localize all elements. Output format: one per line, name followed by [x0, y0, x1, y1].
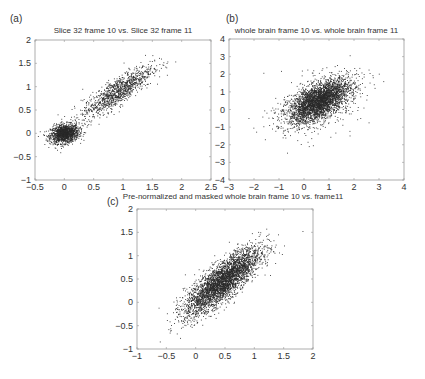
- y-tick-label: −1: [123, 344, 133, 354]
- x-tick-label: 4: [401, 182, 406, 192]
- y-tick-label: −2: [215, 140, 225, 150]
- scatter-points: [38, 55, 176, 153]
- axes-box: [35, 40, 211, 180]
- y-tick-label: 0: [128, 297, 133, 307]
- x-tick-label: 2: [351, 182, 356, 192]
- y-tick-label: −1: [215, 122, 225, 132]
- scatter-panel-b: −3−2−101234−4−3−2−101234whole brain fram…: [215, 13, 407, 192]
- y-tick-label: 2: [128, 204, 133, 214]
- x-tick-label: 0: [62, 182, 67, 192]
- y-tick-label: −4: [215, 175, 225, 185]
- y-tick-label: 1: [128, 251, 133, 261]
- y-tick-label: 1: [220, 87, 225, 97]
- scatter-points: [159, 229, 304, 343]
- x-tick-label: 0.5: [219, 351, 232, 361]
- y-tick-label: 2: [26, 35, 31, 45]
- y-tick-label: 1.5: [18, 58, 31, 68]
- y-tick-label: −1: [21, 175, 31, 185]
- y-tick-label: 0.5: [120, 274, 133, 284]
- panel-label: (c): [107, 196, 119, 207]
- x-tick-label: −1: [274, 182, 284, 192]
- panel-label: (a): [10, 13, 22, 24]
- y-tick-label: 1.5: [120, 227, 133, 237]
- scatter-panel-c: −1−0.500.511.52−1−0.500.511.52Pre-normal…: [107, 192, 344, 361]
- y-tick-label: −0.5: [13, 152, 31, 162]
- x-tick-label: 1.5: [146, 182, 159, 192]
- y-tick-label: 0: [220, 105, 225, 115]
- x-tick-label: 2: [179, 182, 184, 192]
- panel-label: (b): [226, 13, 238, 24]
- scatter-points: [249, 55, 385, 153]
- chart-title: whole brain frame 10 vs. whole brain fra…: [234, 26, 399, 35]
- chart-title: Pre-normalized and masked whole brain fr…: [123, 192, 344, 201]
- figure: −0.500.511.522.5−1−0.500.511.52Slice 32 …: [0, 0, 425, 379]
- x-tick-label: 3: [376, 182, 381, 192]
- y-tick-label: −0.5: [115, 321, 133, 331]
- y-tick-label: 4: [220, 34, 225, 44]
- x-tick-label: −1: [132, 351, 142, 361]
- y-tick-label: 2: [220, 69, 225, 79]
- chart-title: Slice 32 frame 10 vs. Slice 32 frame 11: [54, 26, 193, 35]
- x-tick-label: −3: [224, 182, 234, 192]
- x-tick-label: −2: [249, 182, 259, 192]
- x-tick-label: 1.5: [277, 351, 290, 361]
- scatter-figure: −0.500.511.522.5−1−0.500.511.52Slice 32 …: [0, 0, 425, 379]
- x-tick-label: 1: [252, 351, 257, 361]
- x-tick-label: 0: [193, 351, 198, 361]
- scatter-panel-a: −0.500.511.522.5−1−0.500.511.52Slice 32 …: [10, 13, 217, 192]
- x-tick-label: 2: [310, 351, 315, 361]
- y-tick-label: 0.5: [18, 105, 31, 115]
- x-tick-label: 1: [326, 182, 331, 192]
- x-tick-label: 0.5: [87, 182, 100, 192]
- y-tick-label: 3: [220, 52, 225, 62]
- y-tick-label: −3: [215, 157, 225, 167]
- x-tick-label: 0: [301, 182, 306, 192]
- y-tick-label: 0: [26, 128, 31, 138]
- x-tick-label: 1: [120, 182, 125, 192]
- y-tick-label: 1: [26, 82, 31, 92]
- x-tick-label: −0.5: [157, 351, 175, 361]
